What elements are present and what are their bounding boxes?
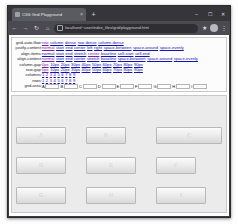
property-value-link[interactable]: 40px <box>82 62 91 67</box>
grid-area-input[interactable] <box>83 84 97 89</box>
property-value-link[interactable]: right <box>94 45 102 50</box>
forward-icon[interactable]: → <box>21 24 30 33</box>
property-value-link[interactable]: 9 <box>73 78 75 83</box>
property-value-link[interactable]: 3 <box>50 72 52 77</box>
grid-area-input[interactable] <box>102 84 116 89</box>
grid-item-c[interactable]: C <box>156 127 222 144</box>
property-value-link[interactable]: 2 <box>46 72 48 77</box>
minimize-button[interactable]: – <box>190 8 203 20</box>
maximize-button[interactable]: ☐ <box>203 8 216 20</box>
property-value-link[interactable]: 1 <box>42 72 44 77</box>
property-value-link[interactable]: 6 <box>61 78 63 83</box>
property-value-link[interactable]: 90px <box>134 67 143 72</box>
property-value-link[interactable]: stretch <box>87 56 99 61</box>
property-value-link[interactable]: dense <box>65 40 76 45</box>
grid-area-input[interactable] <box>176 84 190 89</box>
property-value-link[interactable]: 70px <box>113 67 122 72</box>
property-value-link[interactable]: 80px <box>124 67 133 72</box>
browser-tab[interactable]: CSS Grid Playground × <box>12 8 86 21</box>
property-value-link[interactable]: normal <box>42 56 55 61</box>
grid-area-input[interactable] <box>138 84 152 89</box>
property-value-link[interactable]: center <box>74 56 85 61</box>
property-value-link[interactable]: end <box>66 51 73 56</box>
home-icon[interactable]: ⌂ <box>43 24 52 33</box>
property-value-link[interactable]: row dense <box>78 40 97 45</box>
bookmark-icon[interactable]: ★ <box>200 24 208 32</box>
grid-item-g[interactable]: G <box>16 187 66 204</box>
property-value-link[interactable]: space-around <box>133 45 158 50</box>
property-value-link[interactable]: space-evenly <box>160 45 184 50</box>
property-value-link[interactable]: stretch <box>74 51 86 56</box>
property-value-link[interactable]: normal <box>42 45 55 50</box>
menu-icon[interactable]: ⋮ <box>220 24 228 32</box>
property-value-link[interactable]: 4 <box>54 72 56 77</box>
property-value-link[interactable]: 8 <box>69 72 71 77</box>
property-value-link[interactable]: space-between <box>118 56 146 61</box>
property-value-link[interactable]: 80px <box>124 62 133 67</box>
property-value-link[interactable]: space-evenly <box>174 56 198 61</box>
grid-item-e[interactable]: E <box>86 157 136 174</box>
property-value-link[interactable]: 5 <box>57 72 59 77</box>
property-value-link[interactable]: 90px <box>134 62 143 67</box>
property-value-link[interactable]: 40px <box>82 67 91 72</box>
grid-item-h[interactable]: H <box>86 187 136 204</box>
property-value-link[interactable]: 30px <box>71 67 80 72</box>
close-window-button[interactable]: ✕ <box>216 8 229 20</box>
property-value-link[interactable]: 0px <box>42 67 49 72</box>
grid-area-input[interactable] <box>120 84 134 89</box>
grid-area-input[interactable] <box>45 84 59 89</box>
property-value-link[interactable]: 7 <box>65 72 67 77</box>
property-value-link[interactable]: 10px <box>50 67 59 72</box>
property-value-link[interactable]: 7 <box>65 78 67 83</box>
grid-item-f[interactable]: F <box>156 157 196 174</box>
property-value-link[interactable]: baseline <box>101 51 116 56</box>
property-value-link[interactable]: start <box>56 51 64 56</box>
property-value-link[interactable]: self-start <box>118 51 134 56</box>
property-value-link[interactable]: center <box>74 45 85 50</box>
grid-area-input[interactable] <box>64 84 78 89</box>
property-value-link[interactable]: end <box>66 45 73 50</box>
property-value-link[interactable]: column dense <box>98 40 124 45</box>
property-value-link[interactable]: 0px <box>42 62 49 67</box>
property-value-link[interactable]: end <box>66 56 73 61</box>
property-value-link[interactable]: 10px <box>50 62 59 67</box>
address-bar[interactable]: localhost/~user/index_files/grid/playgro… <box>54 24 198 33</box>
avatar[interactable] <box>210 24 218 32</box>
property-value-link[interactable]: self-end <box>135 51 150 56</box>
grid-item-i[interactable]: I <box>156 187 206 204</box>
property-value-link[interactable]: 20px <box>61 62 70 67</box>
property-value-link[interactable]: 50px <box>92 62 101 67</box>
property-value-link[interactable]: space-between <box>104 45 132 50</box>
property-value-link[interactable]: 4 <box>54 78 56 83</box>
property-value-link[interactable]: 8 <box>69 78 71 83</box>
property-value-link[interactable]: baseline <box>101 56 116 61</box>
property-value-link[interactable]: 60px <box>103 62 112 67</box>
back-icon[interactable]: ← <box>10 24 19 33</box>
property-value-link[interactable]: 5 <box>57 78 59 83</box>
property-value-link[interactable]: space-around <box>147 56 172 61</box>
grid-item-d[interactable]: D <box>16 157 66 174</box>
property-value-link[interactable]: start <box>56 56 64 61</box>
new-tab-button[interactable]: + <box>89 11 98 20</box>
grid-item-a[interactable]: A <box>16 127 66 144</box>
property-value-link[interactable]: 3 <box>50 78 52 83</box>
property-value-link[interactable]: 70px <box>113 62 122 67</box>
property-value-link[interactable]: normal <box>42 51 55 56</box>
grid-area-input[interactable] <box>193 84 207 89</box>
property-value-link[interactable]: column <box>50 40 63 45</box>
property-value-link[interactable]: 30px <box>71 62 80 67</box>
property-value-link[interactable]: 60px <box>103 67 112 72</box>
property-value-link[interactable]: 20px <box>61 67 70 72</box>
grid-item-b[interactable]: B <box>86 127 126 144</box>
close-icon[interactable]: × <box>80 12 83 17</box>
reload-icon[interactable]: ↻ <box>32 24 41 33</box>
property-value-link[interactable]: 50px <box>92 67 101 72</box>
property-value-link[interactable]: center <box>88 51 99 56</box>
property-value-link[interactable]: start <box>56 45 64 50</box>
property-value-link[interactable]: 6 <box>61 72 63 77</box>
property-value-link[interactable]: row <box>42 40 49 45</box>
property-value-link[interactable]: 1 <box>42 78 44 83</box>
property-value-link[interactable]: 2 <box>46 78 48 83</box>
property-value-link[interactable]: 9 <box>73 72 75 77</box>
grid-area-input[interactable] <box>157 84 171 89</box>
